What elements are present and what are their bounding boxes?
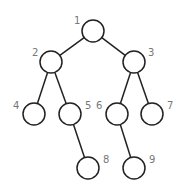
- tree-node-8: [77, 157, 99, 179]
- tree-node-4: [23, 103, 45, 125]
- node-label-9: 9: [149, 154, 155, 165]
- node-label-8: 8: [103, 154, 109, 165]
- binary-tree-diagram: 123456789: [0, 0, 181, 191]
- tree-node-1: [82, 20, 104, 42]
- edge-5-8: [73, 124, 84, 157]
- edge-2-4: [37, 72, 47, 103]
- edge-3-7: [138, 72, 149, 103]
- node-label-4: 4: [13, 100, 19, 111]
- tree-node-7: [141, 103, 163, 125]
- node-label-1: 1: [74, 15, 80, 26]
- node-label-7: 7: [167, 100, 173, 111]
- node-label-5: 5: [85, 100, 91, 111]
- tree-node-2: [40, 51, 62, 73]
- tree-node-9: [123, 157, 145, 179]
- tree-node-6: [106, 103, 128, 125]
- edge-2-5: [55, 72, 66, 103]
- edge-1-2: [60, 38, 84, 56]
- edge-6-9: [120, 124, 130, 157]
- tree-node-5: [59, 103, 81, 125]
- node-label-6: 6: [96, 100, 102, 111]
- tree-node-3: [123, 51, 145, 73]
- node-label-3: 3: [148, 47, 154, 58]
- node-label-2: 2: [32, 47, 38, 58]
- edge-3-6: [120, 72, 130, 103]
- edge-1-3: [102, 38, 125, 56]
